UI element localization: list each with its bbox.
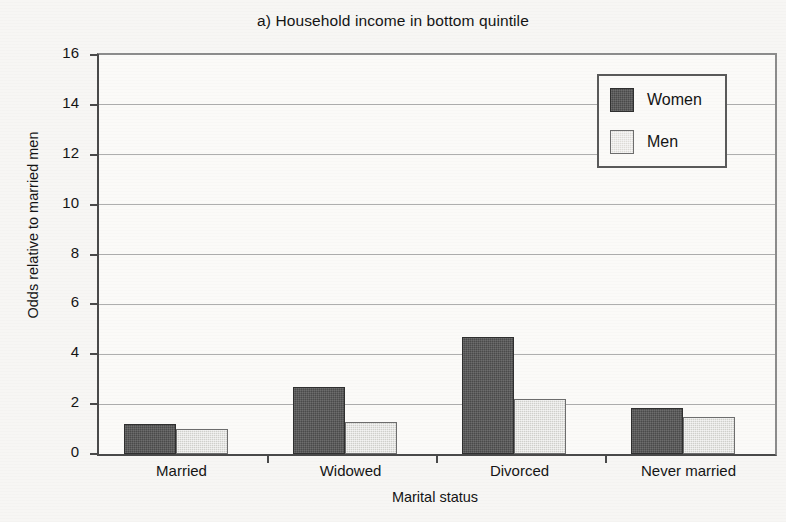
gridline <box>99 354 775 355</box>
legend: Women Men <box>597 74 727 168</box>
bar-widowed-women <box>293 387 345 454</box>
y-tick-mark <box>90 303 99 305</box>
y-tick-mark <box>90 353 99 355</box>
gridline <box>99 254 775 255</box>
y-tick-label: 14 <box>19 95 79 110</box>
x-axis-label: Marital status <box>97 489 773 505</box>
y-tick-label: 8 <box>19 245 79 260</box>
y-tick-label: 2 <box>19 394 79 409</box>
y-tick-label: 4 <box>19 344 79 359</box>
gridline <box>99 304 775 305</box>
y-tick-mark <box>90 403 99 405</box>
page-title: a) Household income in bottom quintile <box>0 12 786 30</box>
figure-panel: a) Household income in bottom quintile O… <box>0 0 786 522</box>
x-tick-label: Married <box>92 462 272 479</box>
legend-label-women: Women <box>647 91 702 109</box>
legend-item-men: Men <box>610 130 678 154</box>
bar-never-married-women <box>631 408 683 454</box>
legend-label-men: Men <box>647 133 678 151</box>
bar-married-men <box>176 429 228 454</box>
y-tick-mark <box>90 204 99 206</box>
y-tick-mark <box>90 54 99 56</box>
y-tick-label: 6 <box>19 294 79 309</box>
legend-swatch-men-icon <box>610 130 634 154</box>
x-tick-label: Widowed <box>261 462 441 479</box>
y-axis-label: Odds relative to married men <box>25 25 41 425</box>
bar-never-married-men <box>683 417 735 454</box>
bar-married-women <box>124 424 176 454</box>
gridline <box>99 204 775 205</box>
bar-divorced-women <box>462 337 514 454</box>
bar-widowed-men <box>345 422 397 454</box>
y-tick-label: 16 <box>19 45 79 60</box>
y-tick-label: 10 <box>19 195 79 210</box>
x-tick-label: Divorced <box>430 462 610 479</box>
y-tick-label: 12 <box>19 145 79 160</box>
legend-item-women: Women <box>610 88 702 112</box>
x-tick-label: Never married <box>599 462 779 479</box>
y-tick-mark <box>90 104 99 106</box>
gridline <box>99 404 775 405</box>
y-tick-mark <box>90 254 99 256</box>
bar-divorced-men <box>514 399 566 454</box>
y-tick-mark <box>90 453 99 455</box>
legend-swatch-women-icon <box>610 88 634 112</box>
y-tick-mark <box>90 154 99 156</box>
y-tick-label: 0 <box>19 444 79 459</box>
